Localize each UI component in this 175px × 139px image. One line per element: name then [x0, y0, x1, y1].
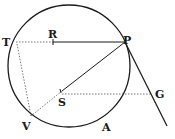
- label-V: V: [21, 120, 31, 133]
- segment-TV-dotted: [17, 44, 31, 116]
- label-A: A: [101, 121, 111, 134]
- circle: [8, 5, 130, 127]
- label-R: R: [48, 28, 58, 41]
- segment-PS: [62, 42, 125, 91]
- label-P: P: [123, 34, 131, 47]
- label-S: S: [58, 96, 66, 109]
- tangent-line: [125, 42, 167, 126]
- label-G: G: [155, 88, 164, 101]
- tick-S: [60, 89, 61, 93]
- label-T: T: [2, 36, 11, 49]
- geometry-diagram: T R P S V G A: [0, 0, 175, 139]
